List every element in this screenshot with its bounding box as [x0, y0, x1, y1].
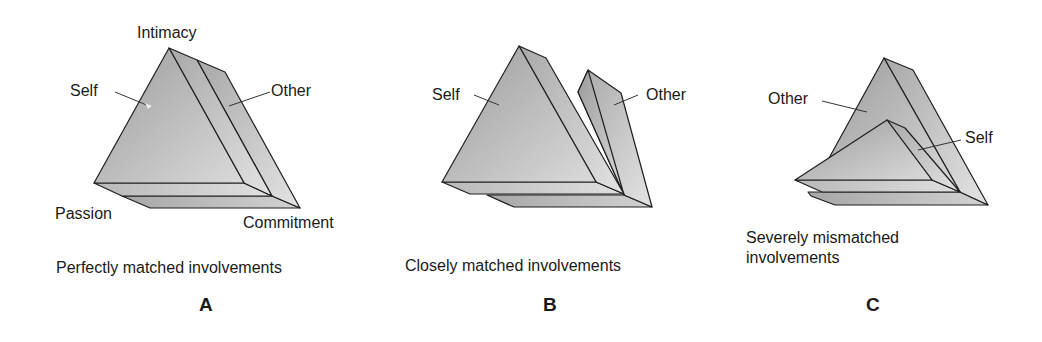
love-triangle-diagram: [0, 0, 1042, 342]
label-self-b: Self: [432, 86, 460, 104]
label-self-a: Self: [70, 82, 98, 100]
label-intimacy: Intimacy: [137, 24, 197, 42]
caption-a: Perfectly matched involvements: [56, 258, 282, 277]
label-other-a: Other: [271, 82, 311, 100]
panel-letter-c: C: [866, 294, 880, 316]
panel-b-figure: [442, 46, 652, 207]
caption-c-line2: involvements: [746, 248, 839, 267]
caption-c-line1: Severely mismatched: [746, 228, 899, 247]
panel-a-figure: [94, 48, 300, 208]
label-other-c: Other: [768, 90, 808, 108]
label-passion: Passion: [55, 205, 112, 223]
label-other-b: Other: [646, 86, 686, 104]
caption-b: Closely matched involvements: [405, 256, 621, 275]
panel-c-figure: [795, 58, 988, 205]
panel-letter-a: A: [199, 294, 213, 316]
panel-letter-b: B: [543, 294, 557, 316]
label-self-c: Self: [965, 129, 993, 147]
label-commitment: Commitment: [243, 214, 334, 232]
